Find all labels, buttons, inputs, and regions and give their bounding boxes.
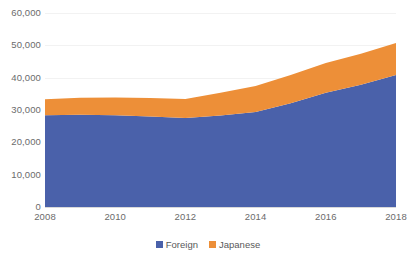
y-axis-tick-label: 50,000 (0, 40, 41, 50)
y-axis-tick-label: 30,000 (0, 105, 41, 115)
x-axis-tick-label: 2014 (245, 211, 267, 223)
y-axis-tick-label: 60,000 (0, 8, 41, 18)
y-axis-tick-label: 20,000 (0, 137, 41, 147)
x-axis-tick-label: 2010 (104, 211, 126, 223)
x-axis-tick-label: 2008 (34, 211, 56, 223)
plot-area (45, 13, 396, 207)
stacked-area-chart: 010,00020,00030,00040,00050,00060,000 20… (0, 0, 416, 257)
legend-item-japanese[interactable]: Japanese (209, 239, 260, 250)
legend-label: Foreign (166, 239, 198, 250)
legend-label: Japanese (219, 239, 260, 250)
x-axis: 200820102012201420162018 (45, 211, 396, 225)
y-axis: 010,00020,00030,00040,00050,00060,000 (0, 0, 41, 220)
legend-swatch-japanese-icon (209, 241, 216, 248)
legend-swatch-foreign-icon (156, 241, 163, 248)
chart-legend: ForeignJapanese (0, 236, 416, 252)
x-axis-line (45, 207, 396, 208)
x-axis-tick-label: 2012 (175, 211, 197, 223)
x-axis-tick-label: 2018 (385, 211, 407, 223)
series-layer (45, 13, 396, 207)
legend-item-foreign[interactable]: Foreign (156, 239, 198, 250)
x-axis-tick-label: 2016 (315, 211, 337, 223)
y-axis-tick-label: 10,000 (0, 170, 41, 180)
y-axis-tick-label: 40,000 (0, 73, 41, 83)
